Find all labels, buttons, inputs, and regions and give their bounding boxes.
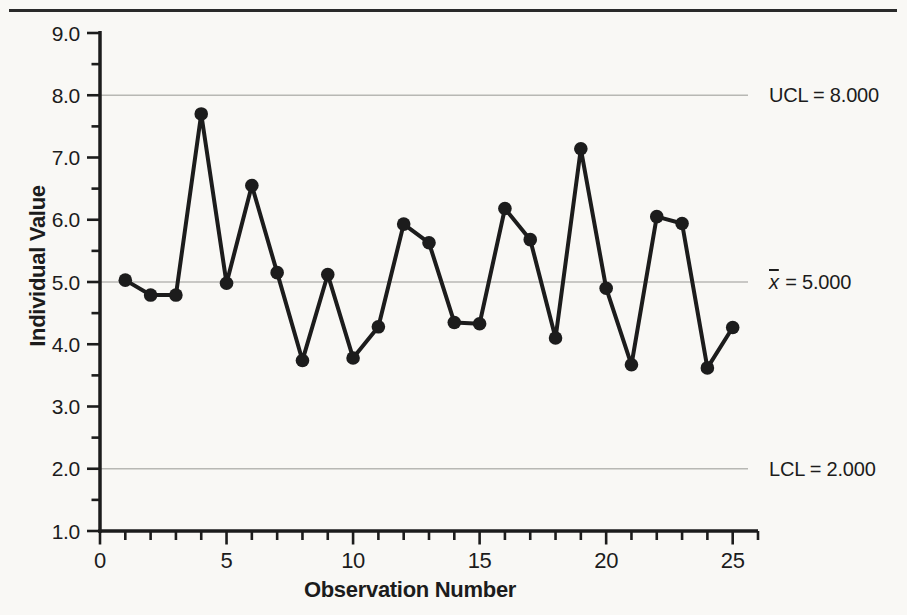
- x-tick-label-0: 0: [94, 548, 106, 573]
- y-tick-label-7: 7.0: [52, 146, 80, 169]
- y-tick-label-4: 4.0: [52, 333, 80, 356]
- data-point-24: [701, 361, 715, 375]
- y-tick-label-8: 8.0: [52, 84, 80, 107]
- data-point-20: [599, 281, 613, 295]
- xbar-value-text: = 5.000: [780, 271, 851, 293]
- data-point-9: [321, 268, 335, 282]
- scanned-control-chart-page: 1.02.03.04.05.06.07.08.09.00510152025 In…: [0, 0, 907, 615]
- xbar-symbol: x: [769, 271, 780, 293]
- data-point-15: [473, 317, 487, 331]
- y-tick-label-2: 2.0: [52, 457, 80, 480]
- x-axis-title: Observation Number: [304, 577, 516, 603]
- y-tick-label-5: 5.0: [52, 271, 80, 294]
- x-tick-label-15: 15: [468, 548, 492, 573]
- data-point-3: [169, 288, 183, 302]
- data-point-16: [498, 202, 512, 216]
- data-point-17: [523, 233, 537, 247]
- data-point-5: [220, 276, 234, 290]
- y-axis-title: Individual Value: [25, 185, 51, 346]
- xbar-label: x = 5.000: [769, 268, 851, 296]
- data-point-7: [270, 266, 284, 280]
- data-point-8: [296, 354, 310, 368]
- data-point-11: [372, 320, 386, 334]
- data-point-25: [726, 321, 740, 335]
- data-point-22: [650, 210, 664, 224]
- data-point-18: [549, 331, 563, 345]
- data-point-2: [144, 288, 158, 302]
- data-point-23: [675, 217, 689, 231]
- data-point-21: [625, 358, 639, 372]
- y-tick-label-9: 9.0: [52, 22, 80, 45]
- data-point-6: [245, 179, 259, 193]
- data-point-14: [448, 316, 462, 330]
- data-point-19: [574, 142, 588, 156]
- data-point-4: [194, 107, 208, 121]
- x-tick-label-10: 10: [341, 548, 365, 573]
- data-point-13: [422, 236, 436, 250]
- data-point-10: [346, 351, 360, 365]
- y-tick-label-1: 1.0: [52, 520, 80, 543]
- y-tick-label-6: 6.0: [52, 208, 80, 231]
- ucl-label: UCL = 8.000: [769, 81, 879, 109]
- y-tick-label-3: 3.0: [52, 395, 80, 418]
- data-point-12: [397, 217, 411, 231]
- lcl-label: LCL = 2.000: [769, 455, 876, 483]
- data-point-1: [119, 273, 133, 287]
- x-tick-label-20: 20: [594, 548, 618, 573]
- x-tick-label-5: 5: [221, 548, 233, 573]
- x-tick-label-25: 25: [721, 548, 745, 573]
